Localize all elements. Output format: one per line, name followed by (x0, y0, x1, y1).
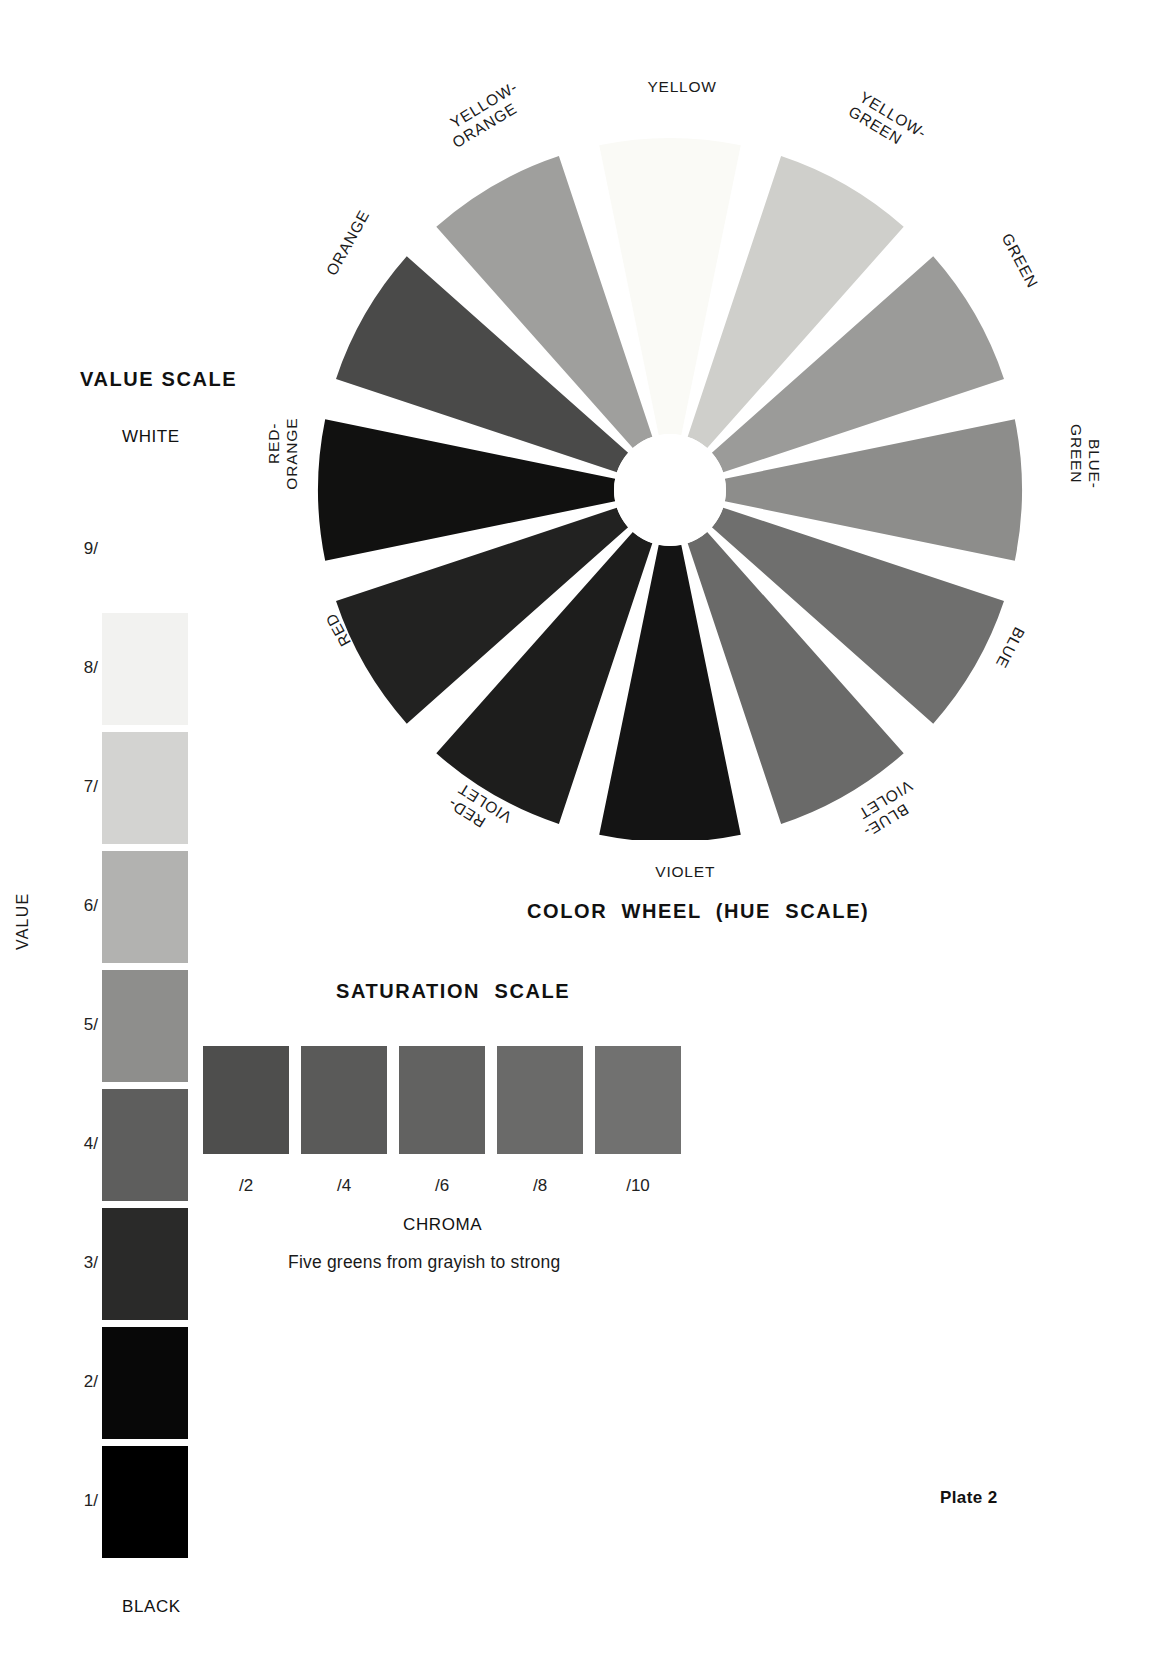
chroma-axis-title: CHROMA (403, 1215, 482, 1235)
chroma-swatch (399, 1046, 485, 1154)
value-swatch (102, 1089, 188, 1201)
color-wheel (300, 40, 1060, 840)
value-swatch (102, 1208, 188, 1320)
value-tick-label: 1/ (60, 1491, 98, 1511)
value-tick-label: 4/ (60, 1134, 98, 1154)
color-wheel-title: COLOR WHEEL (HUE SCALE) (527, 900, 869, 923)
chroma-swatch (497, 1046, 583, 1154)
color-wheel-hub (614, 434, 726, 546)
value-swatch (102, 494, 188, 606)
chroma-tick-label: /4 (301, 1176, 387, 1196)
chroma-tick-label: /8 (497, 1176, 583, 1196)
wheel-label-violet: VIOLET (620, 845, 730, 898)
wheel-label-yellow: YELLOW (612, 60, 732, 113)
color-wheel-svg (300, 40, 1060, 840)
value-swatch (102, 613, 188, 725)
value-tick-label: 6/ (60, 896, 98, 916)
value-swatch (102, 851, 188, 963)
value-tick-label: 7/ (60, 777, 98, 797)
value-scale: 9/8/7/6/5/4/3/2/1/ (0, 0, 340, 1659)
saturation-scale-caption: Five greens from grayish to strong (288, 1252, 560, 1272)
value-tick-label: 2/ (60, 1372, 98, 1392)
chroma-swatch (301, 1046, 387, 1154)
plate-caption: Plate 2 (940, 1488, 998, 1508)
value-swatch (102, 1446, 188, 1558)
wheel-label-blue-green: BLUE- GREEN (1049, 399, 1120, 509)
value-tick-label: 3/ (60, 1253, 98, 1273)
value-scale-black-label: BLACK (122, 1597, 181, 1617)
value-tick-label: 9/ (60, 539, 98, 559)
value-tick-label: 8/ (60, 658, 98, 678)
plate-page: YELLOW YELLOW- GREEN GREEN BLUE- GREEN B… (0, 0, 1174, 1659)
value-swatch (102, 1327, 188, 1439)
value-swatch (102, 732, 188, 844)
chroma-tick-label: /2 (203, 1176, 289, 1196)
saturation-scale-title: SATURATION SCALE (336, 980, 570, 1003)
chroma-swatch (203, 1046, 289, 1154)
chroma-tick-label: /6 (399, 1176, 485, 1196)
chroma-tick-label: /10 (595, 1176, 681, 1196)
value-tick-label: 5/ (60, 1015, 98, 1035)
chroma-swatch (595, 1046, 681, 1154)
value-swatch (102, 970, 188, 1082)
